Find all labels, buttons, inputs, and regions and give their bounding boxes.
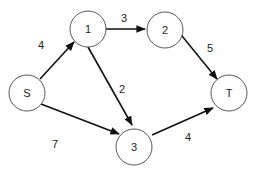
node-label-2: 2 (162, 24, 168, 36)
edge-2-t (178, 31, 217, 79)
node-1: 1 (70, 11, 106, 47)
node-label-s: S (23, 87, 30, 99)
edge-weight-1-2: 3 (121, 12, 127, 24)
node-3: 3 (116, 129, 152, 165)
edge-3-t (152, 108, 213, 135)
node-t: T (211, 75, 247, 111)
edge-1-3 (88, 47, 132, 125)
edge-weight-1-3: 2 (119, 83, 125, 95)
edge-s-1 (40, 42, 74, 79)
edge-s-3 (41, 104, 119, 134)
node-2: 2 (147, 12, 183, 48)
network-diagram: 4 3 2 5 7 4 S 1 2 3 T (0, 0, 255, 174)
edge-weight-s-1: 4 (38, 39, 44, 51)
node-label-3: 3 (131, 141, 137, 153)
node-label-1: 1 (85, 23, 91, 35)
edge-weight-2-t: 5 (207, 42, 213, 54)
edge-weight-s-3: 7 (52, 138, 58, 150)
edge-weight-3-t: 4 (185, 131, 191, 143)
node-label-t: T (226, 87, 233, 99)
node-s: S (9, 75, 45, 111)
